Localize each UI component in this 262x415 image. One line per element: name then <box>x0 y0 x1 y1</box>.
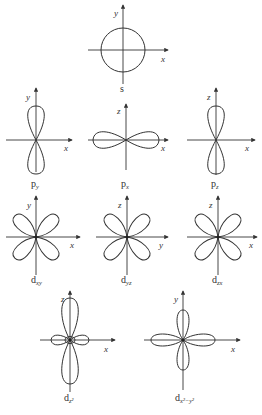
x-axis-label: x <box>160 143 165 153</box>
orbital-dxy: x y dxy <box>6 196 80 286</box>
y-axis-label: y <box>113 8 118 18</box>
y-axis-label: y <box>25 92 30 102</box>
z-axis-label: z <box>117 200 122 210</box>
orbital-label: dyz <box>121 274 132 286</box>
x-axis-label: x <box>244 143 249 153</box>
orbital-px: x z px <box>88 104 168 190</box>
z-axis-label: z <box>206 92 211 102</box>
orbital-label: dz² <box>64 392 75 404</box>
orbital-label: s <box>120 83 124 94</box>
y-axis-label: y <box>26 200 31 210</box>
z-axis-label: z <box>60 294 65 304</box>
x-axis-label: x <box>69 240 74 250</box>
x-axis-label: x <box>160 54 165 64</box>
orbital-label: dxy <box>31 274 42 286</box>
orbital-label: dzx <box>212 274 223 286</box>
orbital-dyz: y z dyz <box>96 196 168 286</box>
x-axis-label: x <box>248 240 253 250</box>
y-axis-label: y <box>158 240 163 250</box>
y-axis-label: y <box>173 294 178 304</box>
orbital-label: dx²−y² <box>175 392 195 404</box>
x-axis-label: x <box>63 143 68 153</box>
orbital-dzx: x z dzx <box>187 196 257 286</box>
orbital-dz2: x z dz² <box>40 291 115 404</box>
x-axis-label: x <box>103 344 108 354</box>
z-axis-label: z <box>208 200 213 210</box>
orbital-label: pz <box>211 178 219 190</box>
orbital-label: px <box>121 178 129 190</box>
orbital-dx2-y2: x y dx²−y² <box>144 291 240 404</box>
orbital-s: x y s <box>88 5 168 94</box>
orbital-pz: x z pz <box>187 88 255 190</box>
orbital-py: x y py <box>6 88 72 190</box>
z-axis-label: z <box>116 106 121 116</box>
orbital-diagram: x y s x y py x z px x z pz <box>0 0 262 415</box>
orbital-label: py <box>31 178 39 190</box>
x-axis-label: x <box>230 344 235 354</box>
